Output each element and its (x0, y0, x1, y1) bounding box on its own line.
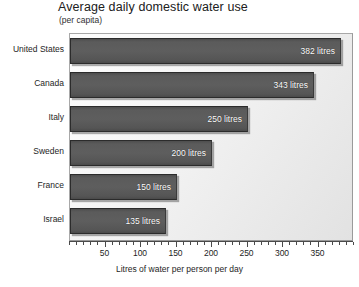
x-tick-minor (76, 242, 77, 245)
bar[interactable]: 343 litres (70, 72, 314, 98)
x-tick-minor (83, 242, 84, 245)
x-tick-minor (303, 242, 304, 245)
x-tick-minor (239, 242, 240, 245)
chart-title: Average daily domestic water use (58, 0, 248, 14)
x-tick-major (105, 242, 106, 247)
x-tick-minor (218, 242, 219, 245)
x-tick-minor (90, 242, 91, 245)
x-tick-minor (261, 242, 262, 245)
x-tick-minor (183, 242, 184, 245)
x-tick-label: 250 (239, 248, 253, 258)
x-tick-minor (225, 242, 226, 245)
x-tick-minor (296, 242, 297, 245)
x-tick-minor (69, 242, 70, 245)
x-tick-minor (268, 242, 269, 245)
bar-chart: Average daily domestic water use (per ca… (0, 0, 359, 287)
x-tick-label: 150 (168, 248, 182, 258)
bar-value-label: 382 litres (301, 46, 336, 56)
x-tick-label: 350 (310, 248, 324, 258)
bar[interactable]: 250 litres (70, 106, 248, 132)
x-tick-minor (168, 242, 169, 245)
bar-value-label: 135 litres (126, 216, 161, 226)
x-tick-minor (126, 242, 127, 245)
category-label: Canada (0, 78, 64, 88)
x-tick-minor (289, 242, 290, 245)
category-label: France (0, 180, 64, 190)
x-tick-minor (204, 242, 205, 245)
x-tick-label: 200 (204, 248, 218, 258)
x-tick-minor (97, 242, 98, 245)
x-tick-minor (133, 242, 134, 245)
x-tick-major (140, 242, 141, 247)
category-label: United States (0, 44, 64, 54)
category-label: Sweden (0, 146, 64, 156)
x-tick-label: 50 (100, 248, 109, 258)
chart-subtitle: (per capita) (59, 15, 102, 25)
bar[interactable]: 135 litres (70, 208, 166, 234)
x-tick-label: 300 (275, 248, 289, 258)
x-tick-major (176, 242, 177, 247)
x-tick-minor (275, 242, 276, 245)
x-tick-minor (254, 242, 255, 245)
bar-value-label: 343 litres (274, 80, 309, 90)
bar-value-label: 150 litres (137, 182, 172, 192)
x-tick-minor (112, 242, 113, 245)
x-tick-minor (310, 242, 311, 245)
x-tick-major (247, 242, 248, 247)
bar-value-label: 200 litres (172, 148, 207, 158)
x-tick-minor (161, 242, 162, 245)
x-tick-minor (332, 242, 333, 245)
x-tick-minor (325, 242, 326, 245)
x-tick-label: 100 (133, 248, 147, 258)
x-tick-minor (190, 242, 191, 245)
x-tick-minor (339, 242, 340, 245)
bar-value-label: 250 litres (208, 114, 243, 124)
x-tick-minor (119, 242, 120, 245)
x-tick-major (282, 242, 283, 247)
x-axis-title: Litres of water per person per day (0, 264, 359, 274)
x-tick-minor (353, 242, 354, 245)
x-tick-minor (197, 242, 198, 245)
x-tick-minor (232, 242, 233, 245)
bar[interactable]: 200 litres (70, 140, 212, 166)
x-tick-minor (147, 242, 148, 245)
bar[interactable]: 150 litres (70, 174, 177, 200)
plot-area: 382 litres343 litres250 litres200 litres… (69, 33, 353, 241)
x-tick-minor (346, 242, 347, 245)
x-tick-minor (154, 242, 155, 245)
category-label: Israel (0, 214, 64, 224)
category-label: Italy (0, 112, 64, 122)
bar[interactable]: 382 litres (70, 38, 341, 64)
x-tick-major (211, 242, 212, 247)
x-tick-major (318, 242, 319, 247)
